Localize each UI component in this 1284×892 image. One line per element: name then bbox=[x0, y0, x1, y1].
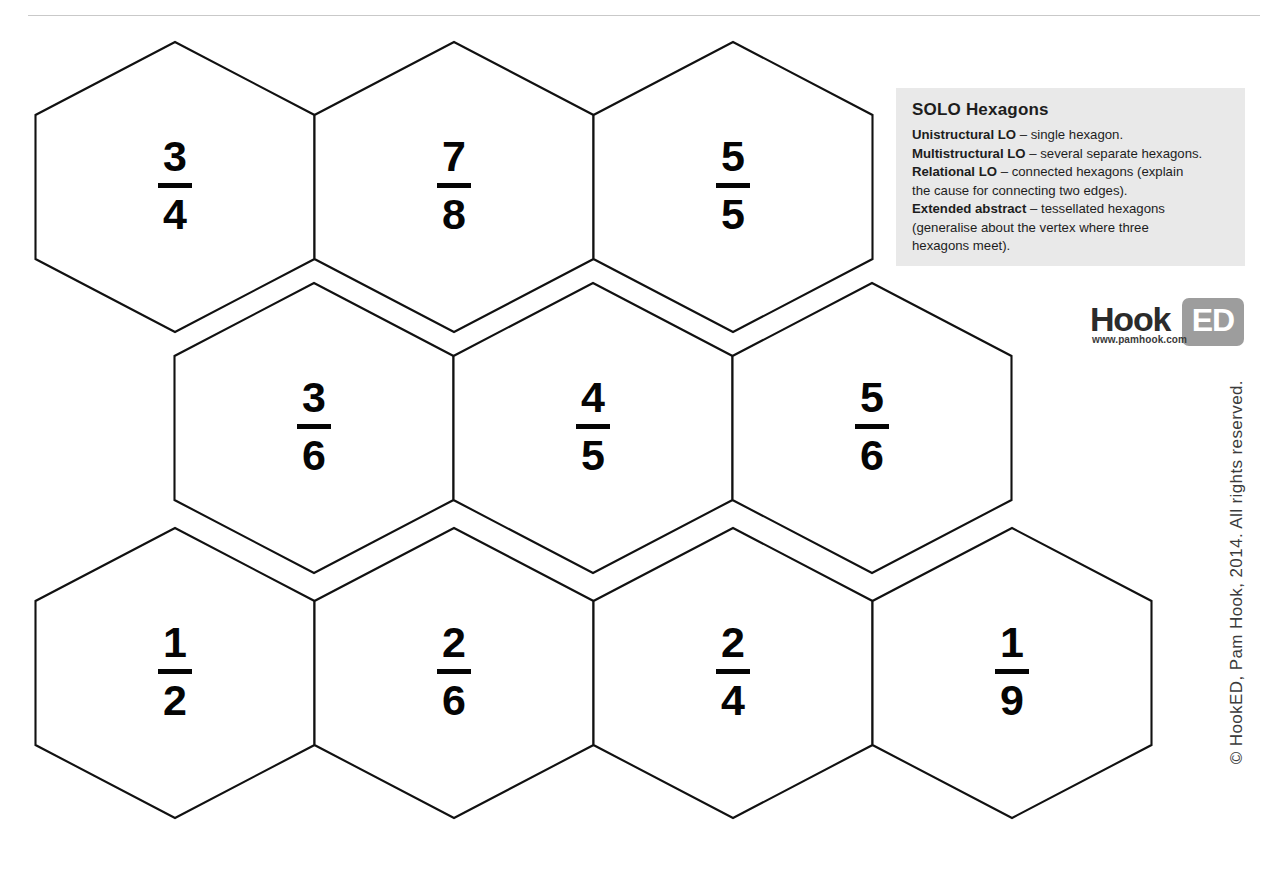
solo-level-description: – several separate hexagons. bbox=[1026, 146, 1203, 161]
solo-level-label: Extended abstract bbox=[912, 201, 1026, 216]
fraction-numerator: 2 bbox=[685, 621, 781, 664]
hexagon-fraction-label: 36 bbox=[266, 376, 362, 477]
logo-website-url: www.pamhook.com bbox=[1092, 334, 1187, 345]
solo-level-label: Multistructural LO bbox=[912, 146, 1026, 161]
solo-panel-line: Multistructural LO – several separate he… bbox=[912, 145, 1231, 164]
fraction-denominator: 5 bbox=[545, 434, 641, 477]
fraction-numerator: 7 bbox=[406, 135, 502, 178]
logo-ed-badge: ED bbox=[1182, 298, 1244, 346]
fraction-numerator: 5 bbox=[685, 135, 781, 178]
hexagon-fraction-label: 26 bbox=[406, 621, 502, 722]
fraction-denominator: 4 bbox=[685, 679, 781, 722]
solo-panel-line: the cause for connecting two edges). bbox=[912, 182, 1231, 201]
fraction-denominator: 6 bbox=[824, 434, 920, 477]
fraction-denominator: 6 bbox=[266, 434, 362, 477]
solo-panel-line: Unistructural LO – single hexagon. bbox=[912, 126, 1231, 145]
solo-level-description: the cause for connecting two edges). bbox=[912, 183, 1128, 198]
fraction-denominator: 6 bbox=[406, 679, 502, 722]
logo-wordmark-ed: ED bbox=[1182, 302, 1244, 339]
fraction-denominator: 4 bbox=[127, 193, 223, 236]
solo-level-label: Relational LO bbox=[912, 164, 997, 179]
fraction-numerator: 1 bbox=[127, 621, 223, 664]
solo-panel-body: Unistructural LO – single hexagon.Multis… bbox=[912, 126, 1231, 256]
fraction-denominator: 9 bbox=[964, 679, 1060, 722]
fraction-numerator: 5 bbox=[824, 376, 920, 419]
fraction-bar bbox=[158, 183, 192, 188]
fraction-numerator: 3 bbox=[127, 135, 223, 178]
solo-panel-line: Extended abstract – tessellated hexagons bbox=[912, 200, 1231, 219]
fraction-denominator: 8 bbox=[406, 193, 502, 236]
solo-level-description: (generalise about the vertex where three bbox=[912, 220, 1149, 235]
hexagon-fraction-label: 12 bbox=[127, 621, 223, 722]
hexagon-fraction-label: 78 bbox=[406, 135, 502, 236]
fraction-numerator: 2 bbox=[406, 621, 502, 664]
fraction-denominator: 5 bbox=[685, 193, 781, 236]
fraction-bar bbox=[855, 424, 889, 429]
fraction-numerator: 1 bbox=[964, 621, 1060, 664]
solo-panel-title: SOLO Hexagons bbox=[912, 100, 1231, 120]
copyright-notice: © HookED, Pam Hook, 2014. All rights res… bbox=[1227, 380, 1247, 764]
solo-level-description: hexagons meet). bbox=[912, 238, 1010, 253]
fraction-bar bbox=[297, 424, 331, 429]
fraction-denominator: 2 bbox=[127, 679, 223, 722]
hexagon-fraction-label: 45 bbox=[545, 376, 641, 477]
fraction-bar bbox=[576, 424, 610, 429]
solo-level-label: Unistructural LO bbox=[912, 127, 1016, 142]
fraction-bar bbox=[437, 669, 471, 674]
solo-level-description: – connected hexagons (explain bbox=[997, 164, 1183, 179]
solo-panel-line: Relational LO – connected hexagons (expl… bbox=[912, 163, 1231, 182]
solo-level-description: – single hexagon. bbox=[1016, 127, 1123, 142]
fraction-bar bbox=[995, 669, 1029, 674]
hexagon-fraction-label: 19 bbox=[964, 621, 1060, 722]
fraction-bar bbox=[716, 183, 750, 188]
fraction-numerator: 4 bbox=[545, 376, 641, 419]
solo-panel-line: (generalise about the vertex where three bbox=[912, 219, 1231, 238]
hooked-logo: Hook ED www.pamhook.com bbox=[1090, 298, 1245, 350]
fraction-bar bbox=[716, 669, 750, 674]
solo-hexagons-info-panel: SOLO Hexagons Unistructural LO – single … bbox=[896, 88, 1245, 266]
solo-panel-line: hexagons meet). bbox=[912, 237, 1231, 256]
fraction-numerator: 3 bbox=[266, 376, 362, 419]
hexagon-fraction-label: 55 bbox=[685, 135, 781, 236]
hexagon-fraction-label: 56 bbox=[824, 376, 920, 477]
fraction-bar bbox=[437, 183, 471, 188]
hexagon-fraction-label: 34 bbox=[127, 135, 223, 236]
solo-level-description: – tessellated hexagons bbox=[1026, 201, 1165, 216]
fraction-bar bbox=[158, 669, 192, 674]
hexagon-fraction-label: 24 bbox=[685, 621, 781, 722]
